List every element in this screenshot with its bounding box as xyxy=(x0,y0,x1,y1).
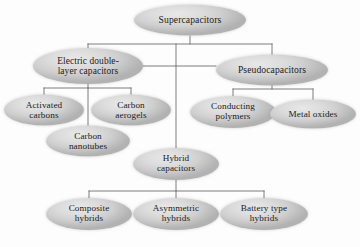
node-label-supercapacitors: Supercapacitors xyxy=(157,15,224,25)
node-label-battery-type-hybrids: Battery type hybrids xyxy=(239,204,289,224)
node-hybrid-capacitors[interactable]: Hybrid capacitors xyxy=(133,148,219,180)
node-conducting-polymers[interactable]: Conducting polymers xyxy=(190,96,276,128)
node-label-hybrid-capacitors: Hybrid capacitors xyxy=(155,154,197,174)
node-label-carbon-aerogels: Carbon aerogels xyxy=(113,100,148,120)
node-battery-type-hybrids[interactable]: Battery type hybrids xyxy=(220,198,308,230)
node-composite-hybrids[interactable]: Composite hybrids xyxy=(46,198,132,230)
node-supercapacitors[interactable]: Supercapacitors xyxy=(134,5,246,36)
node-label-activated-carbons: Activated carbons xyxy=(24,100,65,120)
node-label-composite-hybrids: Composite hybrids xyxy=(67,204,112,224)
node-label-edlc: Electric double- layer capacitors xyxy=(55,56,121,76)
node-pseudocapacitors[interactable]: Pseudocapacitors xyxy=(216,55,328,86)
node-activated-carbons[interactable]: Activated carbons xyxy=(4,95,84,126)
node-label-metal-oxides: Metal oxides xyxy=(287,109,340,119)
node-label-conducting-polymers: Conducting polymers xyxy=(209,102,257,122)
node-carbon-aerogels[interactable]: Carbon aerogels xyxy=(91,95,171,126)
node-label-asymmetric-hybrids: Asymmetric hybrids xyxy=(151,204,201,224)
node-metal-oxides[interactable]: Metal oxides xyxy=(270,100,356,129)
node-label-carbon-nanotubes: Carbon nanotubes xyxy=(67,131,109,151)
node-edlc[interactable]: Electric double- layer capacitors xyxy=(33,48,143,84)
supercapacitors-classification-diagram: SupercapacitorsElectric double- layer ca… xyxy=(0,0,360,247)
node-carbon-nanotubes[interactable]: Carbon nanotubes xyxy=(46,126,130,157)
node-label-pseudocapacitors: Pseudocapacitors xyxy=(236,65,308,75)
node-asymmetric-hybrids[interactable]: Asymmetric hybrids xyxy=(133,198,219,230)
